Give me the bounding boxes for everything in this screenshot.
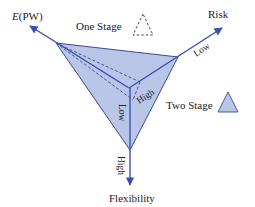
legend-two-stage-icon (218, 92, 238, 112)
risk-low-label: Low (192, 41, 212, 59)
legend-two-stage-label: Two Stage (166, 99, 213, 111)
flexibility-high-label: High (116, 156, 126, 175)
tradeoff-triangle-diagram: E(PW) Risk Low Flexibility High Low High… (0, 0, 255, 207)
legend-one-stage-label: One Stage (76, 20, 122, 32)
inner-low-label: Low (117, 104, 127, 122)
epw-axis-label: E(PW) (11, 10, 43, 23)
risk-axis-label: Risk (208, 8, 229, 20)
legend-one-stage-icon (133, 14, 153, 35)
flexibility-axis-label: Flexibility (109, 192, 155, 204)
two-stage-triangle (56, 43, 178, 150)
